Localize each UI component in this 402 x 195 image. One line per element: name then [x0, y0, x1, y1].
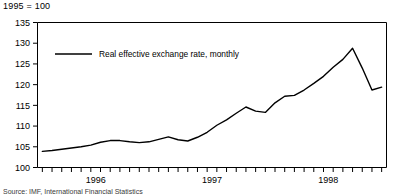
x-axis-year-label: 1996	[86, 175, 106, 185]
legend-label: Real effective exchange rate, monthly	[99, 49, 240, 59]
y-axis-tick-label: 135	[15, 18, 30, 28]
y-axis-tick-label: 125	[15, 59, 30, 69]
x-axis-year-label: 1998	[318, 175, 338, 185]
y-axis-tick-label: 120	[15, 80, 30, 90]
y-axis-tick-label: 100	[15, 163, 30, 173]
y-axis-tick-label: 105	[15, 142, 30, 152]
real-effective-exchange-rate-line-chart: 100105110115120125130135199619971998Real…	[0, 0, 402, 195]
y-axis-tick-label: 110	[16, 121, 30, 131]
y-axis-tick-label: 115	[16, 101, 30, 111]
x-axis-year-label: 1997	[202, 175, 222, 185]
chart-figure: 1995 = 100 10010511011512012513013519961…	[0, 0, 402, 195]
source-note: Source: IMF, International Financial Sta…	[3, 188, 143, 195]
y-axis-tick-label: 130	[15, 38, 30, 48]
data-line-real-effective-exchange-rate	[42, 48, 381, 151]
